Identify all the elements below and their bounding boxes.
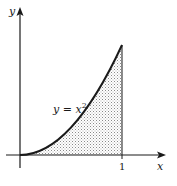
curve-label: y = x2 [52,101,87,116]
x-axis-label: x [157,160,164,173]
y-axis-label: y [8,5,16,18]
shaded-area [20,45,122,155]
x-tick-label-1: 1 [119,161,125,172]
chart-canvas: y x 1 y = x2 [0,0,177,186]
curve-label-exponent: 2 [82,101,87,110]
curve-label-text: y = x [52,103,82,116]
